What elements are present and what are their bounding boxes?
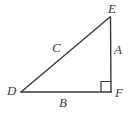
geometry-diagram: E D F A B C: [0, 0, 132, 117]
side-label-b: B: [59, 96, 67, 109]
side-label-c: C: [52, 41, 61, 54]
side-label-a: A: [114, 43, 122, 56]
segment-EF: [111, 17, 112, 92]
segment-DE: [21, 17, 110, 92]
vertex-label-e: E: [108, 2, 116, 15]
right-angle-marker: [101, 82, 111, 93]
vertex-label-d: D: [7, 84, 16, 97]
vertex-label-f: F: [115, 86, 123, 99]
